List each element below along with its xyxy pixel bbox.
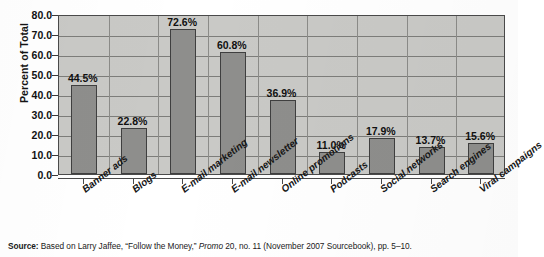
y-axis-tick-label: 20.0 [8,129,52,141]
y-axis-tick-mark [52,35,58,36]
bar[interactable] [121,128,147,174]
y-axis-tick-label: 30.0 [8,109,52,121]
y-axis-tick-label: 70.0 [8,29,52,41]
y-axis-tick-mark [52,135,58,136]
y-axis-tick-labels: 0.010.020.030.040.050.060.070.080.0 [8,0,52,257]
y-axis-tick-mark [52,15,58,16]
y-axis-tick-label: 0.0 [8,169,52,181]
source-publication: Promo [199,241,223,251]
y-axis-tick-mark [52,95,58,96]
bar-value-label: 15.6% [465,130,495,142]
y-axis-tick-label: 50.0 [8,69,52,81]
bar-value-label: 36.9% [267,87,297,99]
bar[interactable] [170,29,196,174]
y-axis-tick-label: 40.0 [8,89,52,101]
y-axis-tick-label: 80.0 [8,9,52,21]
source-note: Source: Based on Larry Jaffee, “Follow t… [8,241,412,251]
bar[interactable] [71,85,97,174]
source-label: Source: [8,241,39,251]
y-axis-tick-mark [52,115,58,116]
y-axis-tick-mark [52,175,58,176]
source-text-after: 20, no. 11 (November 2007 Sourcebook), p… [223,241,412,251]
y-axis-tick-label: 60.0 [8,49,52,61]
bar-value-label: 44.5% [68,72,98,84]
y-axis-tick-mark [52,75,58,76]
source-text-before: Based on Larry Jaffee, “Follow the Money… [39,241,199,251]
bar[interactable] [369,138,395,174]
y-axis-tick-mark [52,155,58,156]
bar-value-label: 72.6% [167,16,197,28]
y-axis-tick-label: 10.0 [8,149,52,161]
bar-value-label: 17.9% [366,125,396,137]
bar-value-label: 60.8% [217,39,247,51]
y-axis-tick-mark [52,55,58,56]
bar-value-label: 22.8% [118,115,148,127]
